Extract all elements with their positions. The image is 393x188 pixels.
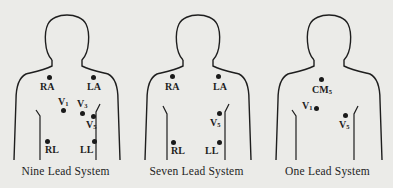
electrode-v1-label: V1 bbox=[58, 97, 68, 108]
torso-outline bbox=[0, 0, 131, 188]
electrode-v5-dot bbox=[217, 111, 222, 116]
electrode-rl-label: RL bbox=[45, 145, 59, 155]
nine-lead-panel: RA LA V1 V3 V5 RL LL Nine Lead System bbox=[0, 0, 131, 188]
one-lead-panel: CM5 V1 V5 One Lead System bbox=[262, 0, 393, 188]
electrode-ra-dot bbox=[170, 74, 175, 79]
nine-lead-caption: Nine Lead System bbox=[0, 165, 131, 177]
electrode-v1-dot bbox=[61, 108, 66, 113]
electrode-cm5-dot bbox=[319, 77, 324, 82]
electrode-ll-label: LL bbox=[80, 145, 93, 155]
electrode-v5-label: V5 bbox=[210, 118, 220, 129]
electrode-v1-label: V1 bbox=[302, 101, 312, 112]
electrode-la-dot bbox=[91, 75, 96, 80]
electrode-la-dot bbox=[216, 74, 221, 79]
electrode-cm5-label: CM5 bbox=[312, 85, 332, 96]
electrode-la-label: LA bbox=[213, 82, 227, 92]
electrode-v5-label: V5 bbox=[86, 120, 96, 131]
seven-lead-panel: RA LA V5 RL LL Seven Lead System bbox=[131, 0, 262, 188]
electrode-rl-label: RL bbox=[171, 146, 185, 156]
electrode-v5-dot bbox=[343, 113, 348, 118]
electrode-ll-label: LL bbox=[205, 146, 218, 156]
electrode-v1-dot bbox=[314, 106, 319, 111]
electrode-ra-dot bbox=[47, 75, 52, 80]
electrode-la-label: LA bbox=[87, 82, 101, 92]
torso-outline bbox=[131, 0, 262, 188]
one-lead-caption: One Lead System bbox=[262, 165, 393, 177]
electrode-v5-label: V5 bbox=[339, 120, 349, 131]
electrode-v3-dot bbox=[80, 111, 85, 116]
electrode-v3-label: V3 bbox=[77, 99, 87, 110]
seven-lead-caption: Seven Lead System bbox=[131, 165, 262, 177]
electrode-ra-label: RA bbox=[165, 82, 179, 92]
electrode-ra-label: RA bbox=[40, 82, 54, 92]
